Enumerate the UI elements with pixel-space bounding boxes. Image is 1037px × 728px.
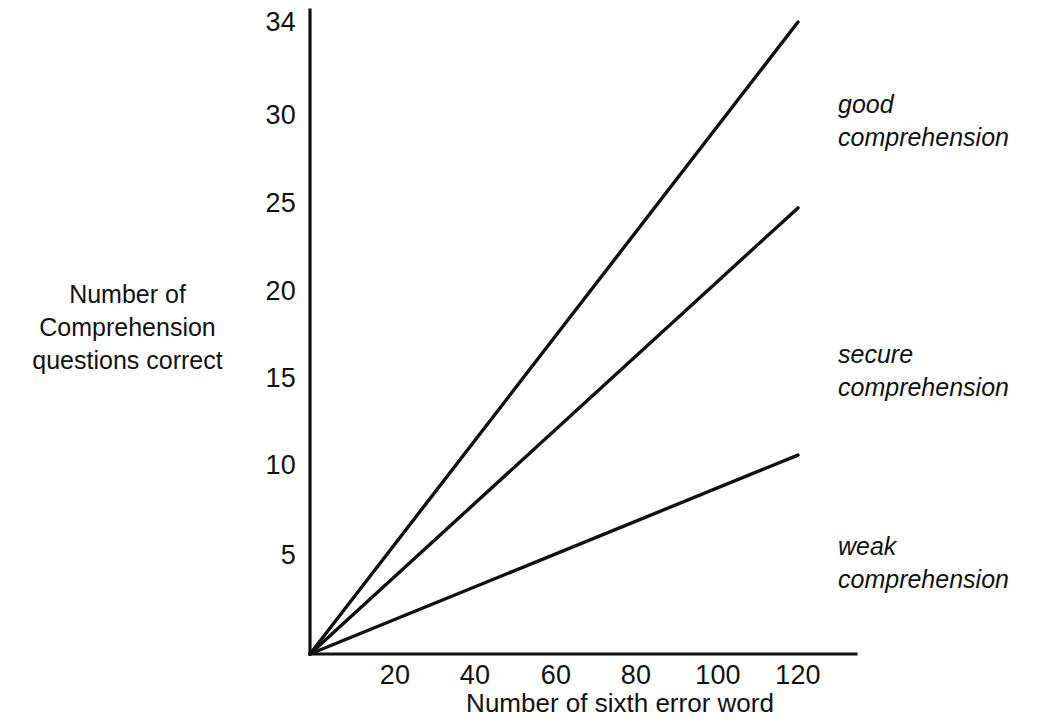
series-annotation-good-line-2: comprehension — [838, 121, 1009, 154]
x-tick-label-20: 20 — [380, 660, 410, 691]
y-tick-label-10: 10 — [248, 450, 296, 481]
x-tick-label-40: 40 — [460, 660, 490, 691]
y-axis-label-line-2: Comprehension — [20, 311, 235, 344]
series-line-good-comprehension — [310, 22, 798, 654]
series-annotation-weak-line-1: weak — [838, 530, 1009, 563]
series-annotation-secure-comprehension: secure comprehension — [838, 338, 1009, 404]
y-tick-label-30: 30 — [248, 100, 296, 131]
series-annotation-weak-line-2: comprehension — [838, 563, 1009, 596]
x-tick-label-120: 120 — [775, 660, 821, 691]
y-tick-label-34: 34 — [248, 7, 296, 38]
x-tick-label-100: 100 — [695, 660, 741, 691]
series-annotation-good-comprehension: good comprehension — [838, 88, 1009, 154]
y-tick-label-20: 20 — [248, 276, 296, 307]
y-tick-label-5: 5 — [248, 540, 296, 571]
x-tick-label-80: 80 — [621, 660, 651, 691]
y-tick-label-15: 15 — [248, 363, 296, 394]
y-axis-label-line-1: Number of — [20, 278, 235, 311]
x-axis-label: Number of sixth error word — [380, 688, 860, 719]
y-axis-label: Number of Comprehension questions correc… — [20, 278, 235, 377]
x-tick-label-60: 60 — [541, 660, 571, 691]
series-line-weak-comprehension — [310, 455, 798, 654]
y-axis-label-line-3: questions correct — [20, 344, 235, 377]
series-line-secure-comprehension — [310, 208, 798, 654]
chart-figure: 34 30 25 20 15 10 5 20 40 60 80 100 120 … — [0, 0, 1037, 728]
series-annotation-weak-comprehension: weak comprehension — [838, 530, 1009, 596]
series-annotation-secure-line-2: comprehension — [838, 371, 1009, 404]
y-tick-label-25: 25 — [248, 188, 296, 219]
series-annotation-secure-line-1: secure — [838, 338, 1009, 371]
series-annotation-good-line-1: good — [838, 88, 1009, 121]
